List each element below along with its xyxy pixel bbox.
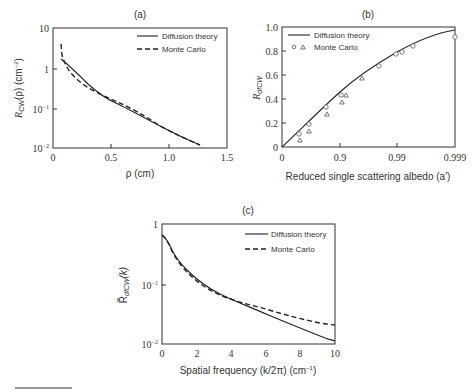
panel-b-xtick: 0.99 (388, 152, 406, 163)
panel-b-diffusion-curve (282, 30, 455, 147)
panel-b-xticks (340, 143, 397, 147)
figure: (a) 10 1 10−1 10−2 0 0.5 1.0 1.5 ρ (cm) … (0, 0, 476, 391)
panel-a-yticks (53, 69, 57, 109)
panel-b-montecarlo-triangles (298, 76, 365, 142)
panel-b-ytick: 0 (273, 142, 278, 153)
panel-a-montecarlo-curve (61, 44, 200, 145)
legend-montecarlo-label: Monte Carlo (162, 45, 206, 54)
triangle-marker-icon (301, 45, 305, 49)
legend-montecarlo-label: Monte Carlo (314, 43, 358, 52)
panel-b-legend: Diffusion theory Monte Carlo (288, 31, 369, 52)
panel-c-ytick: 1 (153, 219, 158, 230)
panel-a-ytick: 10−1 (33, 104, 49, 115)
panel-c-xtick: 6 (264, 348, 269, 359)
panel-b: (b) 0 0.2 0.4 0.6 0.8 1.0 0 0.9 0.99 0.9… (251, 9, 466, 182)
panel-b-xtick: 0.999 (444, 152, 467, 163)
panel-c-ytick: 10−1 (142, 280, 158, 291)
panel-a-xtick: 1.5 (221, 152, 234, 163)
panel-b-ylabel: RdfCW (251, 75, 263, 101)
panel-b-ytick: 0.4 (266, 94, 279, 105)
panel-a-ytick: 1 (44, 64, 49, 75)
panel-c-frame (162, 224, 335, 344)
panel-b-frame (282, 27, 455, 147)
panel-a-xtick: 0.5 (105, 152, 118, 163)
panel-c-title: (c) (242, 205, 254, 216)
panel-a-ytick: 10−2 (33, 143, 49, 154)
legend-montecarlo-label: Monte Carlo (271, 245, 315, 254)
panel-a-diffusion-curve (61, 59, 200, 145)
panel-b-xtick: 0.9 (334, 152, 347, 163)
panel-c-ylabel: R̃dfCW(k) (117, 267, 130, 303)
panel-b-ytick: 0.2 (266, 118, 279, 129)
panel-b-yticks (282, 51, 286, 123)
panel-a-xticks (111, 144, 169, 148)
panel-a-legend: Diffusion theory Monte Carlo (137, 32, 217, 54)
panel-a-xtick: 0 (51, 152, 56, 163)
panel-c-xtick: 0 (160, 348, 165, 359)
panel-c-xtick: 8 (298, 348, 303, 359)
panel-a-ylabel: RCW(ρ) (cm−2) (13, 58, 25, 119)
panel-b-ytick: 0.8 (266, 46, 279, 57)
panel-a-xtick: 1.0 (163, 152, 176, 163)
legend-diffusion-label: Diffusion theory (162, 32, 217, 41)
panel-c-xtick: 4 (229, 348, 234, 359)
panel-a: (a) 10 1 10−1 10−2 0 0.5 1.0 1.5 ρ (cm) … (13, 9, 233, 179)
panel-a-title: (a) (134, 9, 146, 20)
panel-c-legend: Diffusion theory Monte Carlo (245, 230, 326, 254)
panel-c-ytick: 10−2 (142, 339, 158, 350)
panel-c-xlabel: Spatial frequency (k/2π) (cm−1) (180, 365, 317, 376)
panel-b-ytick: 0.6 (266, 70, 279, 81)
panel-a-ytick: 10 (39, 23, 49, 34)
panel-b-xlabel: Reduced single scattering albedo (a′) (286, 171, 451, 182)
panel-b-xtick: 0 (280, 152, 285, 163)
legend-diffusion-label: Diffusion theory (271, 230, 326, 239)
panel-c: (c) 1 10−1 10−2 0 2 4 6 8 10 Spatial fre… (117, 205, 340, 376)
panel-b-ytick: 1.0 (266, 22, 279, 33)
panel-c-xtick: 10 (330, 348, 340, 359)
panel-a-xlabel: ρ (cm) (126, 168, 154, 179)
legend-diffusion-label: Diffusion theory (314, 31, 369, 40)
panel-c-xtick: 2 (195, 348, 200, 359)
circle-marker-icon (292, 45, 296, 49)
panel-b-title: (b) (362, 9, 374, 20)
